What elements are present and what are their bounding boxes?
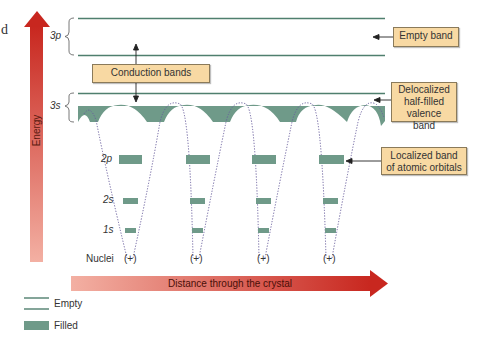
- nucleus-1: (+): [124, 253, 137, 264]
- 3s-brace: [65, 93, 74, 122]
- nucleus-2: (+): [190, 253, 203, 264]
- 3p-empty-band: [78, 19, 385, 56]
- orbital-label-1s: 1s: [103, 224, 114, 235]
- localized-bands: [119, 155, 344, 233]
- orbital-label-2p: 2p: [101, 153, 112, 164]
- legend-filled-label: Filled: [54, 320, 78, 331]
- 3s-valence-band: [78, 105, 385, 126]
- callout-localized-band: Localized band of atomic orbitals: [381, 147, 467, 175]
- legend-swatches: [24, 298, 49, 330]
- nucleus-3: (+): [257, 253, 270, 264]
- 3p-brace: [65, 18, 74, 55]
- callout-empty-band: Empty band: [393, 27, 459, 47]
- stray-character: d: [1, 22, 8, 38]
- distance-axis-label: Distance through the crystal: [168, 278, 292, 289]
- callout-valence-band: Delocalized half-filled valence band: [391, 82, 457, 122]
- orbital-label-3p: 3p: [50, 30, 61, 41]
- nucleus-4: (+): [323, 253, 336, 264]
- nuclei-label: Nuclei: [86, 253, 114, 264]
- energy-axis-label: Energy: [31, 115, 42, 147]
- legend-empty-label: Empty: [54, 298, 82, 309]
- callout-conduction-bands: Conduction bands: [92, 64, 210, 83]
- potential-wells: [84, 103, 384, 258]
- orbital-label-3s: 3s: [50, 100, 61, 111]
- orbital-label-2s: 2s: [103, 194, 114, 205]
